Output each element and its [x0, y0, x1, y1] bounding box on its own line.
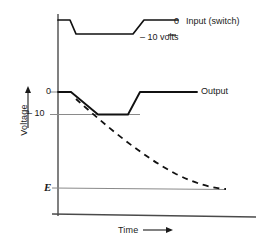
x-axis-arrowhead-icon [166, 227, 173, 233]
y-axis-title: Voltage [20, 80, 29, 160]
input-low-level-label: – 10 volts [140, 33, 179, 42]
gridline-e-level [52, 188, 226, 190]
y-tick-label-zero: 0 [46, 87, 51, 96]
decay-curve-dashed [76, 99, 226, 189]
input-series-label: Input (switch) [186, 17, 240, 26]
output-trace [58, 92, 197, 115]
figure-voltage-vs-time: 0 Input (switch) – 10 volts Output 0 – 1… [0, 0, 277, 244]
plot-canvas [0, 0, 277, 244]
output-series-label: Output [201, 87, 228, 96]
input-high-level-label: 0 [174, 17, 179, 26]
x-axis-line [52, 214, 256, 217]
y-tick-label-minus-ten: – 10 [27, 109, 45, 118]
x-axis-title: Time [118, 226, 138, 235]
e-level-label: E [44, 182, 51, 193]
